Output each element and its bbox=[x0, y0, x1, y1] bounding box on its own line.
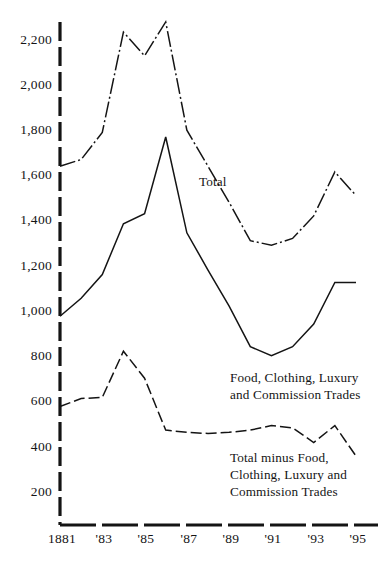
chart-container: 2,200 2,000 1,800 1,600 1,400 1,200 1,00… bbox=[0, 0, 387, 585]
y-tick-label: 400 bbox=[6, 440, 52, 454]
y-tick-label: 200 bbox=[6, 485, 52, 499]
x-tick-label: 1881 bbox=[42, 532, 82, 546]
series-label-total: Total bbox=[199, 174, 227, 191]
y-tick-label: 600 bbox=[6, 394, 52, 408]
y-tick-label: 2,000 bbox=[6, 78, 52, 92]
x-tick-label: '91 bbox=[254, 532, 292, 546]
x-tick-label: '85 bbox=[127, 532, 165, 546]
series-label-food-clothing-luxury-commission: Food, Clothing, Luxury and Commission Tr… bbox=[230, 370, 361, 404]
series-label-total-minus-food-clothing-luxury-commission: Total minus Food, Clothing, Luxury and C… bbox=[230, 450, 347, 501]
x-tick-label: '87 bbox=[170, 532, 208, 546]
x-tick-label: '95 bbox=[339, 532, 377, 546]
y-tick-label: 1,400 bbox=[6, 213, 52, 227]
y-tick-label: 1,200 bbox=[6, 259, 52, 273]
series-line-0 bbox=[60, 22, 356, 245]
x-tick-label: '89 bbox=[212, 532, 250, 546]
y-tick-label: 800 bbox=[6, 349, 52, 363]
series-line-1 bbox=[60, 137, 356, 356]
y-tick-label: 1,800 bbox=[6, 123, 52, 137]
y-tick-label: 1,000 bbox=[6, 304, 52, 318]
y-tick-label: 1,600 bbox=[6, 168, 52, 182]
y-tick-label: 2,200 bbox=[6, 33, 52, 47]
x-tick-label: '93 bbox=[297, 532, 335, 546]
x-tick-label: '83 bbox=[85, 532, 123, 546]
